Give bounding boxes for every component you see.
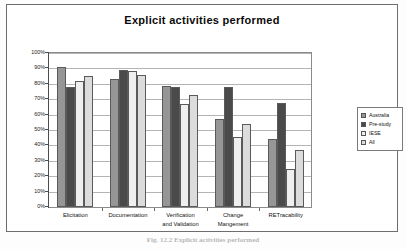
legend-item-label: IESE: [369, 130, 381, 136]
legend: AustraliaPre-studyIESEAll: [357, 107, 403, 151]
y-axis-tick: [45, 52, 48, 53]
bar: [180, 104, 189, 207]
bar-group: [102, 52, 155, 207]
bar: [268, 139, 277, 207]
y-axis-tick-label: 60%: [21, 111, 45, 117]
x-axis-tick: [154, 208, 155, 211]
x-axis-tick-label: Change Mangement: [207, 211, 260, 229]
y-axis-tick: [45, 114, 48, 115]
bar: [189, 95, 198, 207]
bar: [286, 169, 295, 207]
legend-swatch-icon: [361, 113, 366, 118]
y-axis-tick-labels: 100%90%80%70%60%50%40%30%20%10%0%: [20, 52, 45, 208]
y-axis-tick-label: 0%: [21, 203, 45, 209]
y-axis-tick: [45, 67, 48, 68]
y-axis-tick: [45, 175, 48, 176]
figure-container: Explicit activities performed 100%90%80%…: [0, 0, 406, 249]
legend-item[interactable]: Australia: [361, 111, 399, 119]
legend-item[interactable]: Pre-study: [361, 120, 399, 128]
x-axis-tick: [259, 208, 260, 211]
x-axis-tick: [207, 208, 208, 211]
x-axis-tick-label: Verification and Validation: [154, 211, 207, 229]
y-axis-tick: [45, 206, 48, 207]
bar: [171, 87, 180, 207]
bar: [84, 76, 93, 207]
y-axis-tick-label: 20%: [21, 172, 45, 178]
bar: [110, 79, 119, 207]
bar: [57, 67, 66, 207]
chart-frame: Explicit activities performed 100%90%80%…: [6, 4, 398, 232]
bar: [128, 71, 137, 207]
y-axis-tick-label: 70%: [21, 95, 45, 101]
x-axis-tick-label: Elicitation: [49, 211, 102, 220]
y-axis-tick: [45, 129, 48, 130]
x-axis-tick: [102, 208, 103, 211]
bar: [242, 124, 251, 207]
legend-item-label: Australia: [369, 112, 389, 118]
y-axis-tick-label: 50%: [21, 126, 45, 132]
y-axis-tick: [45, 83, 48, 84]
bar-group: [49, 52, 102, 207]
bar-group: [154, 52, 207, 207]
y-axis-tick: [45, 98, 48, 99]
y-axis-tick: [45, 160, 48, 161]
bar: [119, 70, 128, 207]
y-axis-tick-label: 100%: [21, 49, 45, 55]
legend-swatch-icon: [361, 122, 366, 127]
legend-swatch-icon: [361, 140, 366, 145]
legend-item-label: All: [369, 139, 375, 145]
y-axis-tick: [45, 191, 48, 192]
bar: [277, 103, 286, 207]
bar: [224, 87, 233, 207]
legend-item-label: Pre-study: [369, 121, 391, 127]
chart-title: Explicit activities performed: [7, 14, 397, 26]
bar: [162, 86, 171, 207]
y-axis-tick-label: 90%: [21, 64, 45, 70]
bar-group: [259, 52, 312, 207]
x-axis-tick-label: RETracability: [259, 211, 312, 220]
legend-item[interactable]: IESE: [361, 129, 399, 137]
y-axis-tick-label: 10%: [21, 188, 45, 194]
legend-item[interactable]: All: [361, 138, 399, 146]
bar: [75, 81, 84, 207]
bars-layer: [49, 52, 312, 207]
figure-caption: Fig. 12.2 Explicit activities performed: [0, 234, 406, 247]
x-axis-tick-label: Documentation: [102, 211, 155, 220]
legend-swatch-icon: [361, 131, 366, 136]
bar: [215, 119, 224, 207]
bar: [295, 150, 304, 207]
bar: [66, 87, 75, 207]
y-axis-tick: [45, 144, 48, 145]
bar: [233, 137, 242, 207]
bar-group: [207, 52, 260, 207]
y-axis-tick-label: 30%: [21, 157, 45, 163]
y-axis-tick-label: 40%: [21, 141, 45, 147]
bar: [137, 75, 146, 207]
y-axis-tick-label: 80%: [21, 80, 45, 86]
